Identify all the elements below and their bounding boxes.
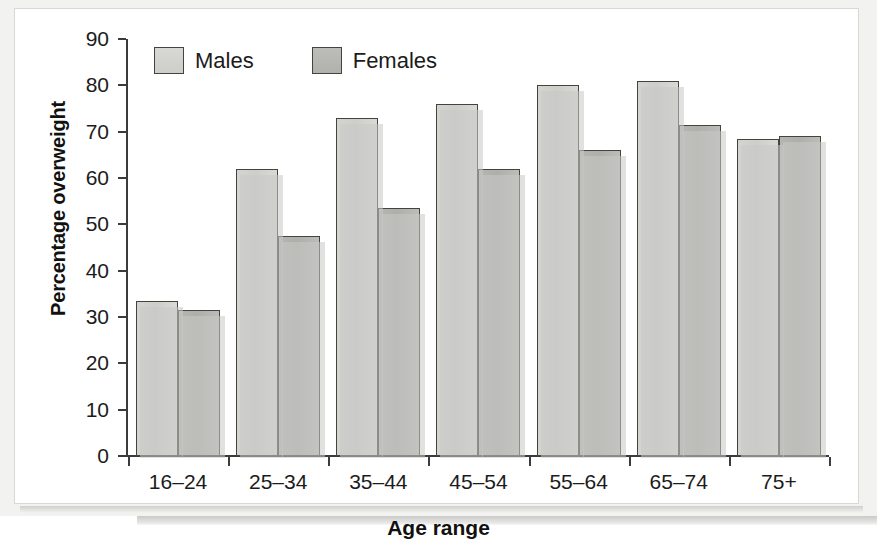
bar-males-35–44 bbox=[336, 118, 378, 456]
x-tick bbox=[829, 457, 831, 466]
y-tick-label: 10 bbox=[63, 399, 109, 420]
y-tick bbox=[118, 409, 126, 411]
bar-females-16–24 bbox=[178, 310, 220, 456]
y-tick-label: 30 bbox=[63, 306, 109, 327]
x-label-25–34: 25–34 bbox=[228, 470, 328, 494]
bar-males-55–64 bbox=[537, 85, 579, 456]
x-label-65–74: 65–74 bbox=[629, 470, 729, 494]
y-tick-label: 60 bbox=[63, 167, 109, 188]
legend-item-females: Females bbox=[312, 47, 437, 74]
x-label-75+: 75+ bbox=[729, 470, 829, 494]
bar-males-75+ bbox=[737, 139, 779, 456]
x-tick bbox=[128, 457, 130, 466]
bar-females-65–74 bbox=[679, 125, 721, 456]
bar-group bbox=[729, 39, 829, 456]
bar-males-45–54 bbox=[436, 104, 478, 456]
y-axis-title: Percentage overweight bbox=[47, 74, 70, 344]
y-tick-label: 90 bbox=[63, 28, 109, 49]
y-tick bbox=[118, 223, 126, 225]
y-tick-label: 40 bbox=[63, 260, 109, 281]
y-tick bbox=[118, 270, 126, 272]
y-tick bbox=[118, 131, 126, 133]
x-label-55–64: 55–64 bbox=[529, 470, 629, 494]
x-tick bbox=[529, 457, 531, 466]
x-axis-title: Age range bbox=[0, 516, 877, 540]
chart-page: 0102030405060708090 16–2425–3435–4445–54… bbox=[0, 0, 877, 554]
x-tick bbox=[428, 457, 430, 466]
card-shadow bbox=[20, 506, 863, 513]
plot-area bbox=[128, 39, 829, 456]
bar-males-65–74 bbox=[637, 81, 679, 456]
x-tick bbox=[729, 457, 731, 466]
x-label-16–24: 16–24 bbox=[128, 470, 228, 494]
y-tick bbox=[118, 455, 126, 457]
chart-card: 0102030405060708090 16–2425–3435–4445–54… bbox=[14, 8, 859, 504]
y-tick-label: 0 bbox=[63, 445, 109, 466]
chart-legend: Males Females bbox=[154, 47, 437, 74]
bar-females-75+ bbox=[779, 136, 821, 456]
bar-group bbox=[529, 39, 629, 456]
y-tick bbox=[118, 362, 126, 364]
bar-group bbox=[629, 39, 729, 456]
x-tick bbox=[228, 457, 230, 466]
legend-label-females: Females bbox=[353, 48, 437, 74]
bar-males-16–24 bbox=[136, 301, 178, 456]
bar-group bbox=[328, 39, 428, 456]
x-tick bbox=[328, 457, 330, 466]
bar-females-55–64 bbox=[579, 150, 621, 456]
bar-males-25–34 bbox=[236, 169, 278, 456]
bar-group bbox=[228, 39, 328, 456]
x-tick bbox=[629, 457, 631, 466]
x-label-45–54: 45–54 bbox=[428, 470, 528, 494]
bar-females-45–54 bbox=[478, 169, 520, 456]
bar-females-25–34 bbox=[278, 236, 320, 456]
legend-item-males: Males bbox=[154, 47, 254, 74]
bar-group bbox=[128, 39, 228, 456]
bar-group bbox=[428, 39, 528, 456]
legend-label-males: Males bbox=[195, 48, 254, 74]
y-tick-label: 70 bbox=[63, 121, 109, 142]
y-tick bbox=[118, 84, 126, 86]
y-tick-label: 20 bbox=[63, 352, 109, 373]
y-tick-label: 80 bbox=[63, 74, 109, 95]
bar-chart: 0102030405060708090 16–2425–3435–4445–54… bbox=[15, 9, 860, 505]
bar-females-35–44 bbox=[378, 208, 420, 456]
y-tick-label: 50 bbox=[63, 213, 109, 234]
y-tick bbox=[118, 177, 126, 179]
legend-swatch-females-icon bbox=[312, 47, 342, 74]
y-tick bbox=[118, 38, 126, 40]
y-tick bbox=[118, 316, 126, 318]
legend-swatch-males-icon bbox=[154, 47, 184, 74]
x-label-35–44: 35–44 bbox=[328, 470, 428, 494]
